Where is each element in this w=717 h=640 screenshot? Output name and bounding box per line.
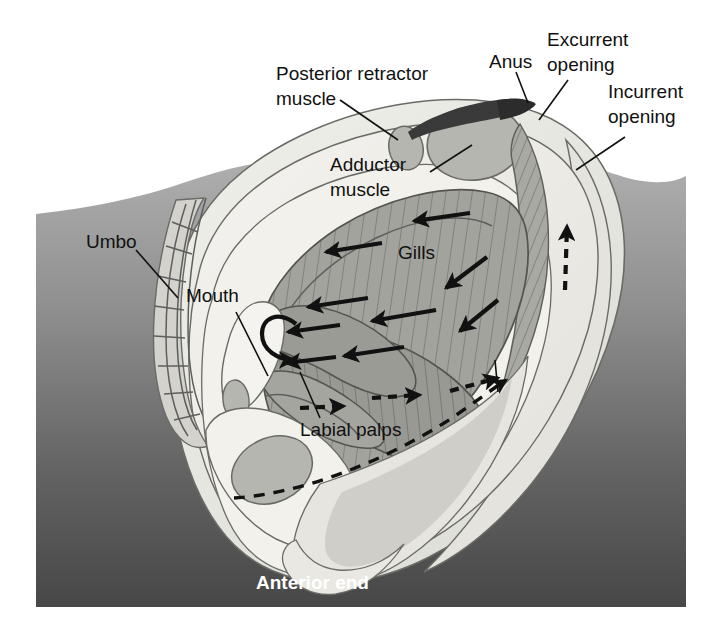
label-anus: Anus bbox=[489, 51, 532, 72]
label-adductor-muscle-line1: Adductor bbox=[330, 154, 407, 175]
label-mouth: Mouth bbox=[186, 285, 239, 306]
label-incurrent-opening-line2: opening bbox=[608, 106, 676, 127]
label-gills: Gills bbox=[398, 242, 435, 263]
label-posterior-retractor-muscle-line2: muscle bbox=[276, 88, 336, 109]
clam-anatomy-diagram: Posterior retractor muscle Anus Excurren… bbox=[0, 0, 717, 640]
label-excurrent-opening-line1: Excurrent bbox=[547, 29, 629, 50]
leader-excurrent bbox=[539, 80, 568, 120]
label-umbo: Umbo bbox=[86, 231, 137, 252]
label-posterior-retractor-muscle-line1: Posterior retractor bbox=[276, 63, 429, 84]
leader-anus bbox=[516, 72, 528, 103]
label-excurrent-opening-line2: opening bbox=[547, 54, 615, 75]
label-incurrent-opening-line1: Incurrent bbox=[608, 81, 684, 102]
figure-root: Posterior retractor muscle Anus Excurren… bbox=[0, 0, 717, 640]
label-labial-palps: Labial palps bbox=[300, 419, 401, 440]
label-adductor-muscle-line2: muscle bbox=[330, 179, 390, 200]
label-anterior-end: Anterior end bbox=[256, 572, 369, 593]
